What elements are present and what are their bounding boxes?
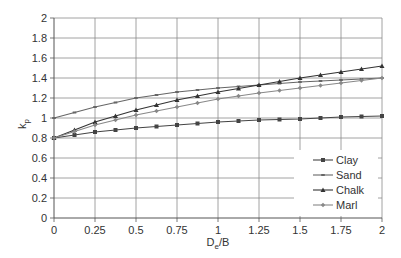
y-tick-label: 1.2 xyxy=(32,92,47,104)
y-tick-label: 1.8 xyxy=(32,32,47,44)
y-tick-label: 0.2 xyxy=(32,192,47,204)
x-tick-label: 0.25 xyxy=(84,224,105,236)
legend-label: Chalk xyxy=(336,184,365,196)
y-tick-label: 1.4 xyxy=(32,72,47,84)
x-tick-label: 2 xyxy=(379,224,385,236)
y-tick-label: 0.6 xyxy=(32,152,47,164)
y-tick-label: 1 xyxy=(41,112,47,124)
legend-label: Sand xyxy=(336,169,362,181)
y-tick-label: 0.4 xyxy=(32,172,47,184)
y-tick-label: 2 xyxy=(41,12,47,24)
y-axis-label: kp xyxy=(16,118,31,129)
y-tick-label: 1.6 xyxy=(32,52,47,64)
x-tick-label: 1.75 xyxy=(330,224,351,236)
y-tick-label: 0 xyxy=(41,212,47,224)
x-tick-label: 0 xyxy=(51,224,57,236)
chart: 00.20.40.60.811.21.41.61.82 00.250.50.75… xyxy=(0,0,401,258)
y-axis-ticks: 00.20.40.60.811.21.41.61.82 xyxy=(32,12,54,224)
legend: ClaySandChalkMarl xyxy=(294,150,378,216)
x-tick-label: 1.25 xyxy=(248,224,269,236)
x-tick-label: 0.75 xyxy=(166,224,187,236)
x-tick-label: 0.5 xyxy=(128,224,143,236)
legend-label: Marl xyxy=(336,199,357,211)
x-axis-ticks: 00.250.50.7511.251.51.752 xyxy=(51,218,385,236)
y-tick-label: 0.8 xyxy=(32,132,47,144)
x-tick-label: 1.5 xyxy=(292,224,307,236)
x-axis-label: De/B xyxy=(207,236,230,251)
x-tick-label: 1 xyxy=(215,224,221,236)
legend-label: Clay xyxy=(336,154,359,166)
